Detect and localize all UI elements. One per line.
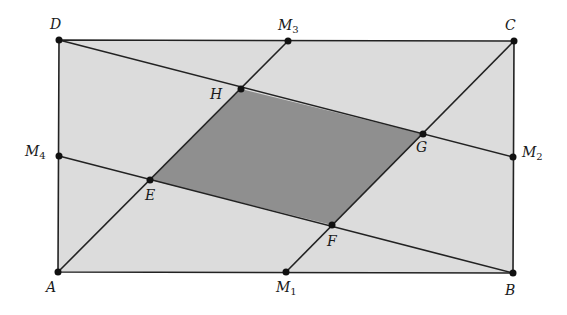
point-m2	[510, 154, 517, 161]
label-d-text: D	[50, 16, 61, 32]
label-m2: M2	[522, 145, 543, 162]
point-b	[510, 270, 517, 277]
label-c: C	[505, 18, 516, 32]
label-b: B	[505, 283, 515, 297]
point-m4	[56, 153, 63, 160]
label-m4-text: M	[25, 143, 39, 159]
label-m3-text: M	[278, 17, 292, 33]
label-c-text: C	[505, 17, 516, 33]
point-m1	[283, 269, 290, 276]
label-e: E	[145, 188, 155, 202]
label-a-text: A	[46, 279, 56, 295]
label-f-text: F	[327, 233, 337, 249]
label-m4: M4	[25, 144, 46, 161]
label-e-text: E	[145, 187, 155, 203]
label-g: G	[416, 140, 427, 154]
point-h	[238, 86, 245, 93]
label-m1-sub: 1	[290, 286, 296, 297]
point-e	[147, 177, 154, 184]
point-c	[511, 38, 518, 45]
label-g-text: G	[416, 139, 427, 155]
geometry-diagram: D M3 C H M4 G M2 E F A M1 B	[0, 0, 567, 315]
label-m1-text: M	[276, 279, 290, 295]
label-m3-sub: 3	[292, 24, 298, 35]
point-a	[55, 269, 62, 276]
label-a: A	[46, 280, 56, 294]
label-d: D	[50, 17, 61, 31]
label-h-text: H	[210, 86, 222, 102]
label-m2-text: M	[522, 144, 536, 160]
label-m2-sub: 2	[536, 151, 542, 162]
label-f: F	[327, 234, 337, 248]
diagram-svg	[0, 0, 567, 315]
label-m3: M3	[278, 18, 299, 35]
point-m3	[285, 38, 292, 45]
label-b-text: B	[505, 282, 515, 298]
label-m1: M1	[276, 280, 297, 297]
point-d	[56, 37, 63, 44]
point-g	[420, 131, 427, 138]
label-m4-sub: 4	[39, 150, 45, 161]
point-f	[329, 222, 336, 229]
label-h: H	[210, 87, 222, 101]
